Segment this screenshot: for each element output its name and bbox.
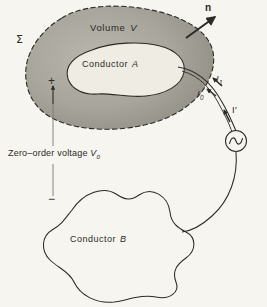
label-zero-order-voltage-text: Zero–order voltage: [8, 148, 88, 158]
conductor-b-region: [43, 191, 193, 303]
label-conductor-a: ConductorA: [82, 59, 139, 69]
label-zero-order-voltage: Zero–order voltage V0: [8, 148, 100, 160]
label-conductor-b-symbol: B: [120, 234, 127, 244]
conductor-b-outline: [43, 191, 193, 303]
label-current-i1-subscript: 1: [219, 79, 223, 86]
label-volume-symbol: V: [130, 22, 137, 33]
label-conductor-a-symbol: A: [132, 59, 139, 69]
label-normal-vector: n: [205, 2, 211, 13]
label-volume-text: Volume: [90, 22, 125, 33]
figure-canvas: VolumeV Σ ConductorA ConductorB n I1 I0 …: [0, 0, 267, 307]
label-conductor-b: ConductorB: [70, 234, 127, 244]
label-volume: VolumeV: [90, 22, 137, 33]
label-conductor-a-text: Conductor: [82, 59, 128, 69]
terminal-plus-sign: +: [48, 74, 55, 88]
ac-source: [226, 131, 247, 152]
lead-wire-lower: [182, 152, 236, 232]
label-conductor-b-text: Conductor: [70, 234, 116, 244]
label-current-i1: I1: [216, 73, 223, 86]
label-sigma-surface: Σ: [16, 33, 23, 46]
label-current-i0: I0: [197, 88, 204, 101]
label-current-iprime: I′: [232, 104, 237, 115]
terminal-minus-sign: −: [48, 192, 55, 206]
label-current-i0-subscript: 0: [200, 94, 204, 101]
label-zero-order-voltage-subscript: 0: [97, 153, 101, 160]
